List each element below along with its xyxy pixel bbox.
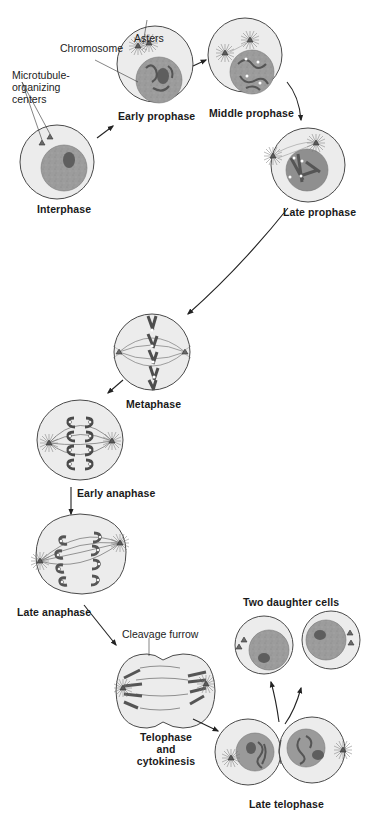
label-metaphase: Metaphase xyxy=(126,398,181,410)
cell-late-prophase xyxy=(264,128,345,202)
cell-late-anaphase xyxy=(31,514,129,594)
cells-daughter xyxy=(235,611,360,674)
label-middle-prophase: Middle prophase xyxy=(209,107,294,119)
label-late-prophase: Late prophase xyxy=(283,206,356,218)
cell-middle-prophase xyxy=(208,18,282,94)
label-cleavage-furrow: Cleavage furrow xyxy=(122,628,198,640)
label-late-anaphase: Late anaphase xyxy=(17,606,91,618)
cell-telophase xyxy=(114,638,215,728)
label-chromosome: Chromosome xyxy=(60,42,123,54)
arrow-to-daughter-right xyxy=(285,688,301,724)
arrow-to-daughter-left xyxy=(271,682,279,722)
label-telophase: Telophase and cytokinesis xyxy=(126,731,206,767)
cell-early-anaphase xyxy=(37,400,123,480)
arrow-metaphase-to-early-anaphase xyxy=(108,380,123,393)
label-early-prophase: Early prophase xyxy=(118,110,195,122)
arrow-interphase-to-early-prophase xyxy=(97,126,113,138)
diagram-canvas xyxy=(0,0,370,825)
label-early-anaphase: Early anaphase xyxy=(77,487,155,499)
label-interphase: Interphase xyxy=(37,203,91,215)
cell-late-telophase xyxy=(215,717,352,785)
cell-metaphase xyxy=(113,314,191,390)
label-two-daughter-cells: Two daughter cells xyxy=(243,596,339,608)
label-asters: Asters xyxy=(134,32,164,44)
label-late-telophase: Late telophase xyxy=(249,798,324,810)
label-mtoc: Microtubule- organizing centers xyxy=(12,69,70,105)
mitosis-diagram: Microtubule- organizing centers Chromoso… xyxy=(0,0,370,825)
arrow-early-to-middle-prophase xyxy=(193,60,206,66)
arrow-late-prophase-to-metaphase xyxy=(188,208,288,314)
